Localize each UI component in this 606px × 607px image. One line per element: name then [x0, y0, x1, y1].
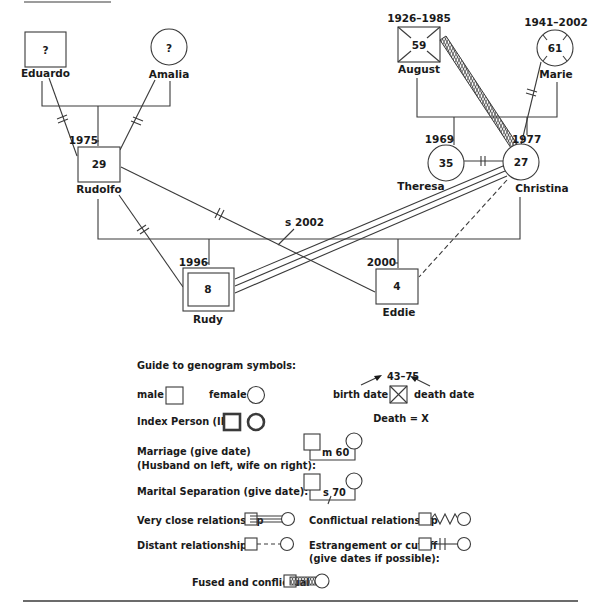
separation-label: s 2002 [285, 216, 324, 228]
conflictual-circle-icon [458, 513, 471, 526]
ip-circle-icon [248, 414, 264, 430]
ip-square-icon [224, 414, 240, 430]
marriage-husband-icon [304, 434, 320, 450]
distant-circle-icon [281, 538, 294, 551]
rudy-age: 8 [204, 283, 211, 295]
amalia-name: Amalia [149, 68, 189, 80]
legend-death-note: Death = X [373, 413, 429, 424]
august-node[interactable]: 1926–1985 59 August [387, 12, 451, 75]
fused-circle-icon [315, 574, 329, 588]
very-close-circle-icon [282, 513, 295, 526]
legend-ip-label: Index Person (IP): [137, 416, 236, 427]
estrangement-square-icon [419, 538, 431, 550]
rudy-name: Rudy [193, 313, 223, 325]
separation-husband-icon [304, 474, 320, 490]
separation-wife-icon [346, 473, 362, 489]
eduardo-name: Eduardo [21, 67, 70, 79]
legend-death-date: death date [414, 389, 475, 400]
legend-title: Guide to genogram symbols: [137, 360, 296, 371]
eddie-name: Eddie [383, 306, 416, 318]
cutoff-rudolfo-rudy [119, 195, 183, 287]
separation-slash [278, 229, 294, 245]
rudolfo-node[interactable]: 1975 29 Rudolfo [69, 134, 122, 195]
august-dates: 1926–1985 [387, 12, 451, 24]
legend-distant: Distant relationship [137, 540, 247, 551]
legend-separation: Marital Separation (give date): [137, 486, 308, 497]
legend-birth-date: birth date [333, 389, 389, 400]
estrangement-circle-icon [458, 538, 471, 551]
christina-age: 27 [514, 156, 529, 168]
marie-dates: 1941–2002 [524, 16, 588, 28]
legend-marriage-1: Marriage (give date) [137, 446, 251, 457]
cutoff-amalia-rudolfo [120, 80, 155, 150]
genogram-diagram: ? Eduardo ? Amalia 1975 29 Rudolfo 1926–… [0, 0, 606, 607]
female-circle-icon [248, 387, 265, 404]
legend-separation-example: s 70 [323, 487, 346, 498]
christina-name: Christina [515, 182, 568, 194]
legend-male-label: male [137, 389, 164, 400]
theresa-name: Theresa [397, 180, 444, 192]
marie-name: Marie [539, 68, 572, 80]
august-age: 59 [412, 39, 427, 51]
christina-birth: 1977 [512, 133, 541, 145]
legend-female-label: female [209, 389, 247, 400]
rudy-node[interactable]: 1996 8 Rudy [179, 256, 234, 325]
marriage-line-eduardo-amalia [42, 81, 170, 106]
legend-marriage-example: m 60 [322, 447, 349, 458]
male-square-icon [166, 387, 183, 404]
theresa-birth: 1969 [425, 133, 454, 145]
theresa-node[interactable]: 1969 35 Theresa [397, 133, 464, 192]
amalia-node[interactable]: ? Amalia [149, 29, 189, 80]
rudolfo-age: 29 [92, 158, 107, 170]
marie-age: 61 [548, 42, 563, 54]
legend-marriage-2: (Husband on left, wife on right): [137, 460, 316, 471]
legend: Guide to genogram symbols: male female I… [137, 360, 475, 588]
amalia-age: ? [166, 42, 172, 54]
august-name: August [398, 63, 440, 75]
conflictual-square-icon [419, 513, 431, 525]
rudolfo-name: Rudolfo [76, 183, 122, 195]
eduardo-age: ? [42, 44, 48, 56]
fused-conflictual-august-christina [440, 36, 517, 148]
theresa-age: 35 [439, 157, 454, 169]
fused-bar-icon [290, 577, 316, 585]
eduardo-node[interactable]: ? Eduardo [21, 32, 70, 79]
eddie-birth: 2000 [367, 256, 396, 268]
rudolfo-birth: 1975 [69, 134, 98, 146]
eddie-node[interactable]: 2000 4 Eddie [367, 256, 418, 318]
legend-estrangement-2: (give dates if possible): [309, 553, 440, 564]
distant-square-icon [245, 538, 257, 550]
marie-node[interactable]: 1941–2002 61 Marie [524, 16, 588, 80]
christina-node[interactable]: 1977 27 Christina [503, 133, 569, 194]
rudy-birth: 1996 [179, 256, 208, 268]
eddie-age: 4 [393, 280, 400, 292]
legend-conflictual: Conflictual relationship [309, 515, 438, 526]
